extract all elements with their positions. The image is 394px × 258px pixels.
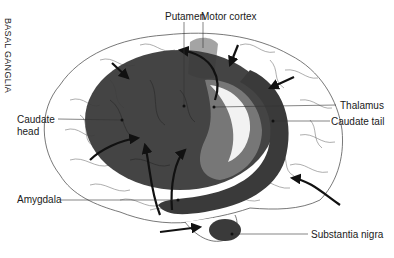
diagram-title-vertical: BASAL GANGLIA	[3, 18, 13, 93]
label-caudate-head-line2: head	[17, 126, 39, 137]
basal-ganglia-diagram: BASAL GANGLIA Putamen Motor cortex Cauda…	[0, 0, 394, 258]
label-caudate-tail: Caudate tail	[331, 116, 384, 127]
brain-illustration	[0, 0, 394, 258]
label-putamen: Putamen	[165, 11, 205, 22]
substantia-nigra-shape	[209, 219, 241, 241]
label-thalamus: Thalamus	[340, 100, 384, 111]
label-caudate-head-line1: Caudate	[17, 114, 55, 125]
label-motor-cortex: Motor cortex	[201, 11, 257, 22]
label-amygdala: Amygdala	[17, 194, 61, 205]
label-substantia-nigra: Substantia nigra	[311, 229, 383, 240]
